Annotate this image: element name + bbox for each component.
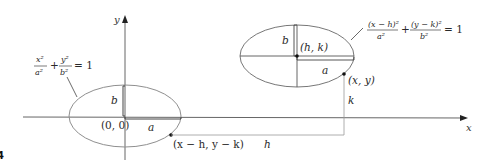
- svg-text:(x − h)²: (x − h)²: [368, 20, 399, 29]
- shifted-a-bracket: [297, 57, 354, 60]
- origin-center-label: (0, 0): [101, 119, 129, 131]
- svg-text:= 1: = 1: [444, 23, 463, 35]
- origin-ellipse-equation: x² a² + y² b² = 1: [34, 55, 93, 77]
- svg-text:b²: b²: [420, 32, 428, 41]
- origin-b-label: b: [111, 94, 118, 106]
- xy-point: [342, 72, 346, 76]
- x-axis: [23, 117, 466, 118]
- origin-point-label: (x − h, y − k): [173, 138, 244, 150]
- svg-text:a²: a²: [377, 32, 385, 41]
- svg-text:b²: b²: [60, 68, 68, 77]
- h-shift-label: h: [264, 138, 271, 150]
- shifted-ellipse-equation: (x − h)² a² + (y − k)² b² = 1: [367, 20, 463, 41]
- shifted-b-label: b: [282, 34, 289, 46]
- xy-point-label: (x, y): [348, 74, 375, 86]
- svg-text:x²: x²: [36, 55, 44, 64]
- svg-text:(y − k)²: (y − k)²: [411, 20, 442, 29]
- svg-text:+: +: [401, 23, 410, 35]
- shifted-center-label: (h, k): [300, 41, 328, 53]
- svg-text:+: +: [50, 59, 59, 71]
- x-axis-label: x: [466, 122, 472, 133]
- shifted-center-point: [295, 54, 299, 58]
- svg-text:a²: a²: [35, 68, 43, 77]
- origin-equation-pointer: [67, 77, 77, 97]
- svg-text:y²: y²: [60, 55, 69, 64]
- y-axis-label: y: [113, 14, 120, 25]
- k-shift-label: k: [348, 94, 354, 106]
- shifted-a-label: a: [322, 64, 328, 76]
- figure-number: 4: [0, 150, 4, 160]
- svg-text:= 1: = 1: [74, 59, 93, 71]
- shifted-equation-pointer: [351, 28, 363, 40]
- y-axis-arrow-icon: [122, 15, 128, 23]
- origin-a-label: a: [148, 121, 154, 133]
- ellipse-diagram: x y b a (0, 0) x² a² + y² b² = 1 (x − h,…: [0, 0, 489, 160]
- x-axis-arrow-icon: [460, 115, 468, 121]
